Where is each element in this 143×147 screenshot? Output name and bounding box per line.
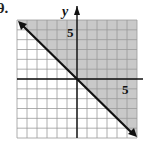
y-axis-arrow-icon (74, 6, 80, 15)
x-tick-label-5: 5 (122, 82, 129, 97)
y-axis-label: y (60, 4, 69, 19)
inequality-graph: y 5 5 (0, 0, 143, 147)
y-tick-label-5: 5 (67, 25, 74, 40)
